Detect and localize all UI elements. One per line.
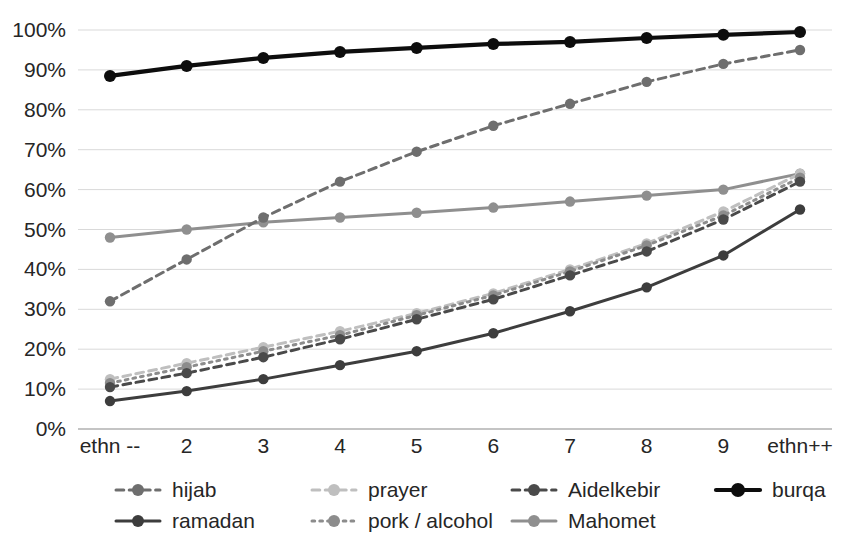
data-point [564, 36, 576, 48]
data-point [488, 202, 498, 212]
data-point [411, 208, 421, 218]
legend-label: prayer [368, 478, 428, 501]
data-point [795, 176, 805, 186]
series-line [110, 174, 800, 379]
data-point [717, 29, 729, 41]
data-point [565, 196, 575, 206]
legend-label: Mahomet [568, 509, 656, 532]
data-point [794, 26, 806, 38]
series-pork-alcohol [105, 172, 805, 388]
data-point [795, 45, 805, 55]
x-axis-tick-labels: ethn --23456789ethn++ [80, 434, 833, 457]
data-point [718, 214, 728, 224]
data-point [488, 328, 498, 338]
data-point [105, 296, 115, 306]
data-point [105, 232, 115, 242]
data-point [181, 60, 193, 72]
series-line [110, 50, 800, 301]
data-point [258, 212, 268, 222]
data-point [641, 190, 651, 200]
legend-item-burqa[interactable]: burqa [716, 478, 826, 501]
data-point [257, 52, 269, 64]
chart-container: 0%10%20%30%40%50%60%70%80%90%100% ethn -… [0, 0, 844, 553]
series-prayer [105, 168, 805, 384]
data-point [565, 270, 575, 280]
x-axis-tick-label: 8 [641, 434, 653, 457]
data-point [641, 282, 651, 292]
data-point [411, 146, 421, 156]
data-point [258, 352, 268, 362]
legend-item-prayer[interactable]: prayer [312, 478, 428, 501]
series-line [110, 174, 800, 238]
data-point [105, 382, 115, 392]
data-point [104, 70, 116, 82]
data-point [181, 224, 191, 234]
data-point [488, 121, 498, 131]
data-point [181, 254, 191, 264]
data-point [181, 368, 191, 378]
legend-item-hijab[interactable]: hijab [116, 478, 216, 501]
legend-marker-icon [731, 483, 745, 497]
legend-label: ramadan [172, 509, 255, 532]
data-point [105, 396, 115, 406]
line-chart: 0%10%20%30%40%50%60%70%80%90%100% ethn -… [0, 0, 844, 553]
y-axis-tick-label: 30% [24, 297, 66, 320]
legend-label: hijab [172, 478, 216, 501]
y-axis-tick-label: 100% [12, 18, 66, 41]
y-axis-tick-labels: 0%10%20%30%40%50%60%70%80%90%100% [12, 18, 66, 440]
data-point [565, 306, 575, 316]
series-burqa [104, 26, 806, 82]
y-axis-tick-label: 90% [24, 58, 66, 81]
data-point [565, 99, 575, 109]
legend-label: pork / alcohol [368, 509, 493, 532]
series-hijab [105, 45, 805, 307]
legend-marker-icon [132, 515, 144, 527]
y-axis-tick-label: 50% [24, 218, 66, 241]
legend-label: Aidelkebir [568, 478, 660, 501]
x-axis-tick-label: 5 [411, 434, 423, 457]
x-axis-tick-label: ethn++ [767, 434, 832, 457]
legend-item-pork-alcohol[interactable]: pork / alcohol [312, 509, 493, 532]
data-point [258, 374, 268, 384]
data-point [641, 32, 653, 44]
series-line [110, 178, 800, 383]
data-point [411, 42, 423, 54]
x-axis-tick-label: 6 [487, 434, 499, 457]
y-axis-tick-label: 20% [24, 337, 66, 360]
y-axis-tick-label: 60% [24, 178, 66, 201]
data-point [335, 360, 345, 370]
data-point [795, 204, 805, 214]
data-point [411, 314, 421, 324]
legend-item-aidelkebir[interactable]: Aidelkebir [512, 478, 660, 501]
legend-marker-icon [528, 515, 540, 527]
data-point [411, 346, 421, 356]
x-axis-tick-label: 9 [717, 434, 729, 457]
x-axis-tick-label: 7 [564, 434, 576, 457]
data-point [335, 176, 345, 186]
data-point [335, 334, 345, 344]
chart-legend: hijabprayerAidelkebirburqaramadanpork / … [116, 478, 826, 532]
y-axis-tick-label: 0% [36, 417, 66, 440]
data-point [335, 212, 345, 222]
series-mahomet [105, 168, 805, 242]
legend-marker-icon [328, 515, 340, 527]
x-axis-tick-label: 4 [334, 434, 346, 457]
legend-item-ramadan[interactable]: ramadan [116, 509, 255, 532]
data-point [181, 386, 191, 396]
y-axis-tick-label: 80% [24, 98, 66, 121]
data-point [641, 246, 651, 256]
x-axis-tick-label: 3 [257, 434, 269, 457]
data-point [334, 46, 346, 58]
legend-item-mahomet[interactable]: Mahomet [512, 509, 656, 532]
legend-marker-icon [328, 484, 340, 496]
x-axis-tick-label: ethn -- [80, 434, 141, 457]
data-point [718, 59, 728, 69]
y-axis-tick-label: 40% [24, 257, 66, 280]
legend-marker-icon [528, 484, 540, 496]
legend-label: burqa [772, 478, 826, 501]
legend-marker-icon [132, 484, 144, 496]
y-axis-tick-label: 70% [24, 138, 66, 161]
data-point [718, 184, 728, 194]
data-point [487, 38, 499, 50]
data-point [641, 77, 651, 87]
